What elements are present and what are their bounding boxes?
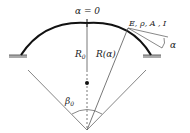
center-point bbox=[85, 81, 89, 85]
label-beta0: β0 bbox=[64, 96, 74, 107]
right-support bbox=[143, 55, 161, 58]
arch-diagram: α = 0 E, ρ, A , I α R0 R(α) β0 bbox=[0, 0, 190, 133]
label-r0: R0 bbox=[74, 49, 86, 60]
label-properties: E, ρ, A , I bbox=[128, 19, 167, 28]
label-alpha-zero: α = 0 bbox=[75, 6, 100, 16]
left-support bbox=[9, 55, 27, 58]
label-alpha: α bbox=[170, 40, 176, 50]
label-r-alpha: R(α) bbox=[95, 49, 116, 59]
variable-radius-line bbox=[87, 28, 128, 130]
right-radial-line bbox=[87, 70, 146, 130]
left-radial-line bbox=[28, 70, 87, 130]
alpha-arc bbox=[162, 38, 165, 48]
